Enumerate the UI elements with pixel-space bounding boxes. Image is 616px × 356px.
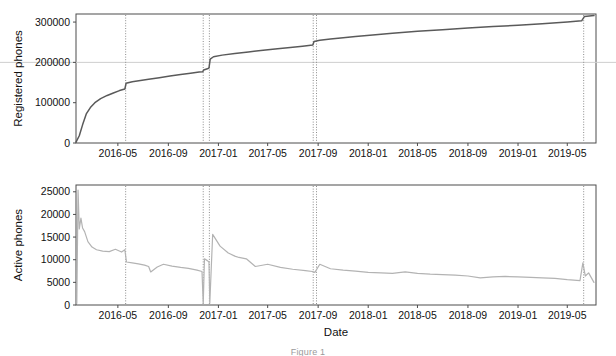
y-tick-label: 0 bbox=[64, 299, 70, 311]
x-tick-label: 2019-05 bbox=[548, 147, 587, 159]
y-axis-title-active-phones: Active phones bbox=[12, 209, 24, 281]
x-tick-label: 2018-09 bbox=[449, 147, 488, 159]
y-axis-title-registered-phones: Registered phones bbox=[12, 30, 24, 127]
y-tick-label: 20000 bbox=[41, 208, 70, 220]
y-tick-label: 0 bbox=[64, 137, 70, 149]
x-tick-label: 2016-05 bbox=[99, 147, 138, 159]
chart-panel-active-phones: 05000100001500020000250002016-052016-092… bbox=[12, 185, 596, 338]
y-tick-label: 25000 bbox=[41, 185, 70, 197]
x-tick-label: 2019-05 bbox=[548, 309, 587, 321]
panel-border-active-phones bbox=[76, 185, 596, 305]
x-tick-label: 2018-05 bbox=[398, 309, 437, 321]
x-tick-label: 2018-01 bbox=[349, 147, 388, 159]
x-tick-label: 2018-01 bbox=[349, 309, 388, 321]
x-tick-label: 2016-05 bbox=[99, 309, 138, 321]
y-tick-label: 15000 bbox=[41, 231, 70, 243]
x-tick-label: 2018-05 bbox=[398, 147, 437, 159]
x-tick-label: 2017-01 bbox=[199, 147, 238, 159]
y-tick-label: 10000 bbox=[41, 253, 70, 265]
x-tick-label: 2017-05 bbox=[248, 309, 287, 321]
y-tick-label: 5000 bbox=[47, 276, 71, 288]
chart-panel-registered-phones: 01000002000003000002016-052016-092017-01… bbox=[0, 14, 616, 159]
x-tick-label: 2017-05 bbox=[248, 147, 287, 159]
x-tick-label: 2017-09 bbox=[299, 309, 338, 321]
y-tick-label: 300000 bbox=[35, 16, 70, 28]
x-axis-title-active-phones: Date bbox=[324, 326, 348, 338]
figure-container: 01000002000003000002016-052016-092017-01… bbox=[0, 0, 616, 356]
x-tick-label: 2016-09 bbox=[149, 147, 188, 159]
x-tick-label: 2019-01 bbox=[499, 309, 538, 321]
y-tick-label: 100000 bbox=[35, 96, 70, 108]
two-panel-timeseries-chart: 01000002000003000002016-052016-092017-01… bbox=[0, 0, 616, 346]
x-tick-label: 2019-01 bbox=[499, 147, 538, 159]
x-tick-label: 2017-09 bbox=[299, 147, 338, 159]
x-tick-label: 2018-09 bbox=[449, 309, 488, 321]
figure-caption: Figure 1 bbox=[0, 346, 616, 356]
x-tick-label: 2017-01 bbox=[199, 309, 238, 321]
y-tick-label: 200000 bbox=[35, 56, 70, 68]
x-tick-label: 2016-09 bbox=[149, 309, 188, 321]
